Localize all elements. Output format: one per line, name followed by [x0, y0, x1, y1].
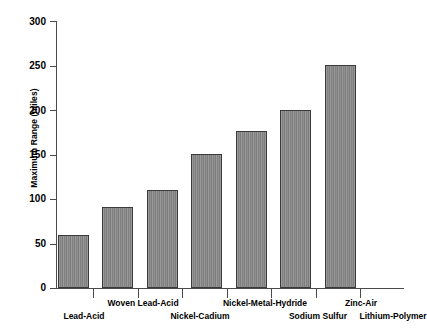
bar-lead-acid — [58, 235, 89, 288]
bar-woven-lead-acid — [102, 207, 133, 288]
x-tick-mark-0 — [93, 289, 94, 298]
bar-lithium-polymer — [325, 65, 356, 288]
y-tick-label-200: 200 — [12, 106, 46, 116]
x-tick-mark-6 — [360, 289, 361, 298]
x-label-lead-acid: Lead-Acid — [63, 311, 104, 321]
y-tick-label-150: 150 — [12, 150, 46, 160]
x-label-lithium-polymer: Lithium-Polymer — [359, 311, 426, 321]
y-tick-label-250: 250 — [12, 61, 46, 71]
x-label-nickel-metal-hydride: Nickel-Metal-Hydride — [223, 298, 307, 308]
bar-sodium-sulfur — [236, 131, 267, 288]
y-tick-label-100: 100 — [12, 194, 46, 204]
x-axis-line — [56, 288, 404, 289]
x-label-sodium-sulfur: Sodium Sulfur — [289, 311, 347, 321]
x-tick-mark-1 — [138, 289, 139, 298]
x-label-nickel-cadium: Nickel-Cadium — [170, 311, 229, 321]
y-tick-label-0: 0 — [12, 283, 46, 293]
x-tick-mark-4 — [271, 289, 272, 298]
y-tick-label-300: 300 — [12, 17, 46, 27]
x-label-zinc-air: Zinc-Air — [345, 298, 377, 308]
x-tick-mark-5 — [316, 289, 317, 298]
x-label-woven-lead-acid: Woven Lead-Acid — [107, 298, 178, 308]
x-tick-mark-2 — [182, 289, 183, 298]
y-tick-label-50: 50 — [12, 239, 46, 249]
x-tick-mark-3 — [227, 289, 228, 298]
bar-nickel-metal-hydride — [191, 154, 222, 288]
bar-zinc-air — [280, 110, 311, 288]
bar-nickel-cadium — [147, 190, 178, 288]
y-axis-tick-labels: 300 250 200 150 100 50 0 — [12, 0, 46, 331]
